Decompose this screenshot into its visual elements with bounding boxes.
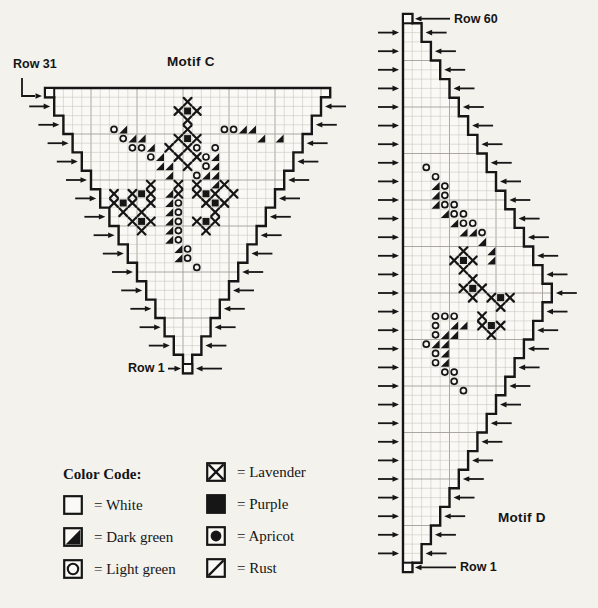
legend-item-rust: = Rust: [206, 558, 306, 578]
rust-symbol-icon: [206, 558, 226, 578]
motif_d-row-marker-box: [403, 14, 412, 23]
purple-symbol-icon: [206, 494, 226, 514]
apricot-symbol-icon: [206, 526, 226, 546]
legend-item-light-green: = Light green: [63, 559, 176, 579]
motif-d-row60-label: Row 60: [454, 12, 498, 26]
motif-d-title: Motif D: [498, 510, 546, 525]
motif_c-row-marker-box: [45, 88, 54, 97]
motif-d-row1-label: Row 1: [460, 560, 497, 574]
color-code-title: Color Code:: [63, 466, 141, 483]
legend-item-dark-green: = Dark green: [63, 527, 176, 547]
motif_c-row-marker-box: [183, 364, 192, 373]
legend-item-label: = Light green: [94, 561, 176, 578]
legend-column-2: = Lavender= Purple= Apricot= Rust: [206, 462, 306, 590]
legend-item-label: = Dark green: [94, 529, 173, 546]
legend-item-apricot: = Apricot: [206, 526, 306, 546]
dark-green-symbol-icon: [63, 527, 83, 547]
legend-item-label: = Apricot: [237, 528, 294, 545]
legend-item-label: = Rust: [237, 560, 277, 577]
legend-item-white: = White: [63, 495, 176, 515]
white-symbol-icon: [63, 495, 83, 515]
motif-c-row31-label: Row 31: [13, 57, 57, 71]
legend-item-label: = Lavender: [237, 464, 306, 481]
motif-c-title: Motif C: [167, 54, 215, 69]
motif_d-chart: [378, 14, 577, 572]
legend-item-label: = White: [94, 497, 143, 514]
motif_d-row-marker-box: [403, 563, 412, 572]
legend-item-label: = Purple: [237, 496, 288, 513]
motif-c-row1-label: Row 1: [128, 361, 165, 375]
legend-column-1: = White= Dark green= Light green: [63, 495, 176, 591]
lavender-symbol-icon: [206, 462, 226, 482]
knitting-chart-page: Motif C Row 31 Row 1 Motif D Row 60 Row …: [0, 0, 598, 608]
legend-item-lavender: = Lavender: [206, 462, 306, 482]
light-green-symbol-icon: [63, 559, 83, 579]
legend-item-purple: = Purple: [206, 494, 306, 514]
motif_c-chart: [29, 88, 346, 373]
